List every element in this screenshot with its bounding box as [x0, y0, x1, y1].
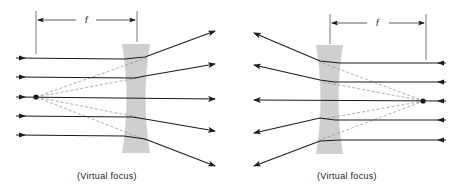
incident-rays [16, 58, 215, 136]
virtual-focus-caption-left: (Virtual focus) [77, 171, 137, 181]
virtual-focal-point [420, 98, 425, 103]
focal-length-label-left: f [82, 15, 91, 25]
right-panel [254, 14, 446, 166]
diverging-lens-diagram: f f (Virtual focus) (Virtual focus) [0, 0, 459, 192]
left-panel [16, 11, 215, 166]
virtual-focus-caption-right: (Virtual focus) [317, 171, 377, 181]
incident-arrowheads [19, 56, 26, 138]
virtual-focal-point [33, 94, 38, 99]
focal-length-label-right: f [373, 18, 382, 28]
incident-rays [254, 63, 446, 140]
